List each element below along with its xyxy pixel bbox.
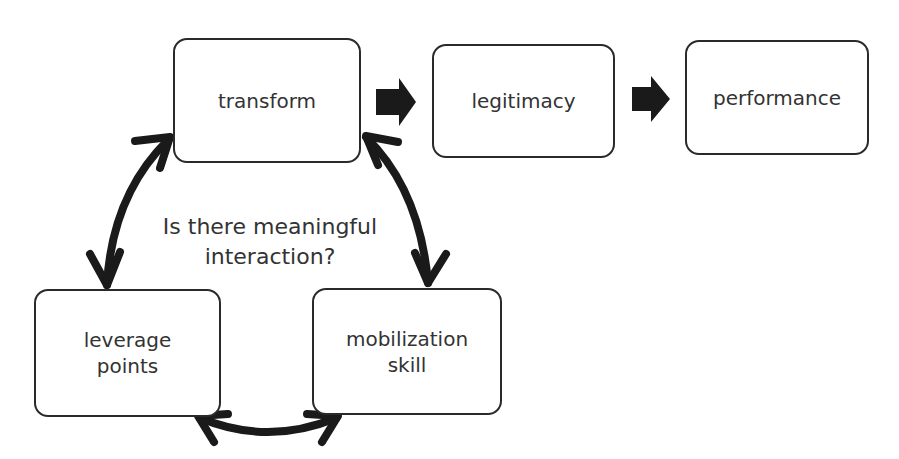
node-leverage-points: leverage points [34, 289, 221, 417]
node-label: transform [218, 88, 316, 114]
node-transform: transform [173, 38, 361, 163]
node-legitimacy: legitimacy [432, 44, 615, 158]
node-label-line1: leverage [84, 327, 171, 353]
node-label: performance [713, 85, 841, 111]
node-label-line2: skill [346, 352, 468, 378]
caption-line1: Is there meaningful [130, 212, 410, 242]
block-arrow-legitimacy-performance [632, 76, 670, 122]
node-label: legitimacy [471, 88, 575, 114]
center-question: Is there meaningful interaction? [130, 212, 410, 272]
node-label-line1: mobilization [346, 326, 468, 352]
node-label-line2: points [84, 353, 171, 379]
double-arrow-leverage-mobilization [198, 414, 338, 442]
block-arrow-transform-legitimacy [376, 78, 416, 126]
caption-line2: interaction? [130, 242, 410, 272]
node-performance: performance [685, 40, 869, 155]
node-mobilization-skill: mobilization skill [312, 288, 502, 415]
